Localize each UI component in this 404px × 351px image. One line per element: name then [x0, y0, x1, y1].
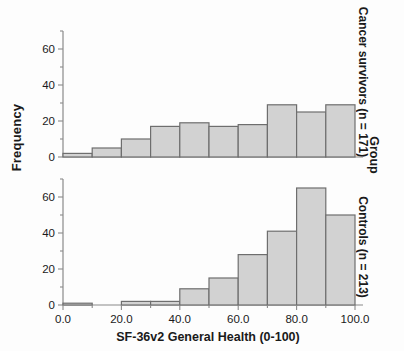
y-tick-label: 0 [29, 299, 55, 311]
histogram-bar [121, 301, 150, 305]
histogram-bar [209, 278, 238, 305]
histogram-bar [238, 125, 267, 157]
x-tick-label: 80.0 [274, 313, 320, 325]
x-tick-label: 20.0 [98, 313, 144, 325]
histogram-bar [238, 255, 267, 305]
histogram-bar [267, 231, 296, 305]
histogram-figure: Frequency SF-36v2 General Health (0-100)… [0, 0, 404, 351]
histogram-bar [92, 148, 121, 157]
histogram-bar [297, 112, 326, 157]
histogram-bar [151, 126, 180, 157]
x-tick-label: 40.0 [157, 313, 203, 325]
histogram-bar [180, 289, 209, 305]
y-tick-label: 20 [29, 115, 55, 127]
histogram-bar [209, 126, 238, 157]
x-tick-label: 60.0 [215, 313, 261, 325]
histogram-bar [121, 139, 150, 157]
histogram-bar [326, 105, 355, 157]
histogram-bar [151, 301, 180, 305]
histogram-bar [267, 105, 296, 157]
x-tick-group [63, 305, 355, 310]
histogram-bar [326, 215, 355, 305]
y-tick-label: 20 [29, 263, 55, 275]
panel-0 [58, 31, 363, 157]
y-tick-label: 40 [29, 227, 55, 239]
plot-canvas [0, 0, 404, 351]
y-tick-label: 40 [29, 79, 55, 91]
histogram-bar [63, 303, 92, 305]
panel-1 [58, 179, 363, 305]
y-tick-label: 60 [29, 191, 55, 203]
x-tick-label: 0.0 [40, 313, 86, 325]
histogram-bar [63, 153, 92, 157]
histogram-bar [180, 123, 209, 157]
y-tick-label: 0 [29, 151, 55, 163]
x-tick-label: 100.0 [332, 313, 378, 325]
y-tick-label: 60 [29, 43, 55, 55]
histogram-bar [297, 188, 326, 305]
